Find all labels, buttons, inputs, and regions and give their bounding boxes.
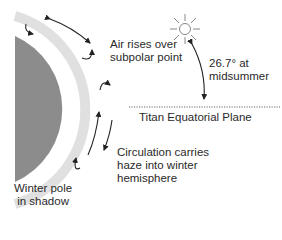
label-equatorial-plane-text: Titan Equatorial Plane xyxy=(139,111,252,124)
titan-planet xyxy=(15,36,62,182)
label-winter-pole: Winter pole in shadow xyxy=(14,182,72,208)
label-air-rises: Air rises over subpolar point xyxy=(110,38,182,64)
label-equatorial-plane: Titan Equatorial Plane xyxy=(139,111,252,124)
angle-arrow xyxy=(192,44,204,99)
label-angle: 26.7° at midsummer xyxy=(209,57,269,83)
label-angle-line1: 26.7° at xyxy=(209,57,269,70)
label-winter-pole-line2: in shadow xyxy=(14,195,72,208)
label-circulation-line3: hemisphere xyxy=(117,172,209,185)
label-circulation-line1: Circulation carries xyxy=(117,146,209,159)
label-circulation: Circulation carries haze into winter hem… xyxy=(117,146,209,185)
label-air-rises-line1: Air rises over xyxy=(110,38,182,51)
label-winter-pole-line1: Winter pole xyxy=(14,182,72,195)
label-angle-line2: midsummer xyxy=(209,70,269,83)
label-air-rises-line2: subpolar point xyxy=(110,51,182,64)
label-circulation-line2: haze into winter xyxy=(117,159,209,172)
